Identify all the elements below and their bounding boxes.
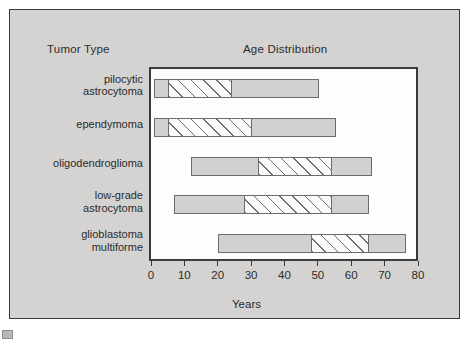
category-label-1: ependymoma bbox=[20, 118, 143, 131]
bar-segment-peak-range bbox=[244, 195, 332, 214]
category-label-0: pilocyticastrocytoma bbox=[20, 73, 143, 98]
bar-segment-upper-range bbox=[251, 118, 335, 137]
category-label-2: oligodendroglioma bbox=[20, 157, 143, 170]
bar-row bbox=[151, 195, 416, 214]
bar-segment-peak-range bbox=[311, 234, 369, 253]
category-label-3: low-gradeastrocytoma bbox=[20, 189, 143, 214]
bar-segment-peak-range bbox=[258, 157, 332, 176]
x-axis-tick bbox=[384, 261, 385, 266]
bar-segment-upper-range bbox=[368, 234, 406, 253]
bar-row bbox=[151, 79, 416, 98]
x-axis-title: Years bbox=[10, 298, 473, 310]
bar-segment-peak-range bbox=[168, 79, 232, 98]
category-label-line: oligodendroglioma bbox=[20, 157, 143, 170]
x-axis-tick-label: 60 bbox=[336, 269, 366, 281]
x-axis-tick-label: 40 bbox=[270, 269, 300, 281]
corner-mark bbox=[2, 330, 13, 339]
bar-segment-lower-range bbox=[218, 234, 312, 253]
category-label-4: glioblastomamultiforme bbox=[20, 228, 143, 253]
category-label-line: astrocytoma bbox=[20, 85, 143, 98]
category-label-line: astrocytoma bbox=[20, 202, 143, 215]
x-axis-tick bbox=[418, 261, 419, 266]
x-axis-tick bbox=[151, 261, 152, 266]
category-label-line: glioblastoma bbox=[20, 228, 143, 241]
x-axis-tick-label: 30 bbox=[236, 269, 266, 281]
column-header-tumor-type: Tumor Type bbox=[47, 43, 110, 55]
plot-area bbox=[149, 67, 418, 261]
x-axis-tick-label: 0 bbox=[136, 269, 166, 281]
bar-row bbox=[151, 234, 416, 253]
x-axis-tick-label: 70 bbox=[370, 269, 400, 281]
x-axis-tick bbox=[317, 261, 318, 266]
column-header-age-distribution: Age Distribution bbox=[243, 43, 327, 55]
x-axis-tick bbox=[251, 261, 252, 266]
x-axis-tick bbox=[217, 261, 218, 266]
bar-segment-peak-range bbox=[168, 118, 252, 137]
bar-row bbox=[151, 118, 416, 137]
category-label-line: ependymoma bbox=[20, 118, 143, 131]
figure-root: Tumor Type Age Distribution pilocyticast… bbox=[0, 0, 473, 344]
x-axis-tick-label: 20 bbox=[203, 269, 233, 281]
category-label-line: low-grade bbox=[20, 189, 143, 202]
x-axis-tick-label: 50 bbox=[303, 269, 333, 281]
bar-row bbox=[151, 157, 416, 176]
category-label-line: multiforme bbox=[20, 241, 143, 254]
figure-panel: Tumor Type Age Distribution pilocyticast… bbox=[9, 9, 460, 319]
bar-segment-lower-range bbox=[154, 79, 168, 98]
bar-segment-upper-range bbox=[331, 195, 369, 214]
bar-segment-upper-range bbox=[231, 79, 319, 98]
bar-segment-upper-range bbox=[331, 157, 372, 176]
x-axis-tick bbox=[284, 261, 285, 266]
bar-segment-lower-range bbox=[174, 195, 245, 214]
x-axis-tick-label: 10 bbox=[169, 269, 199, 281]
x-axis-tick bbox=[351, 261, 352, 266]
x-axis-tick-label: 80 bbox=[403, 269, 433, 281]
bar-segment-lower-range bbox=[191, 157, 259, 176]
bar-segment-lower-range bbox=[154, 118, 168, 137]
category-label-line: pilocytic bbox=[20, 73, 143, 86]
x-axis-tick bbox=[184, 261, 185, 266]
